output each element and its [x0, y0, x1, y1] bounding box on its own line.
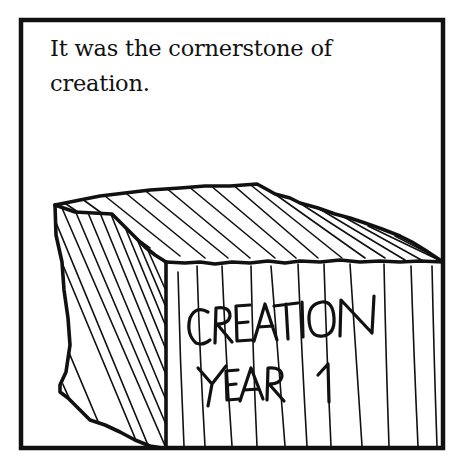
inscription-year-1	[198, 364, 329, 406]
top-face-hatching	[60, 184, 445, 262]
front-face-wood-grain	[178, 264, 437, 446]
inscription-creation	[189, 296, 374, 344]
cornerstone-illustration	[0, 0, 468, 476]
